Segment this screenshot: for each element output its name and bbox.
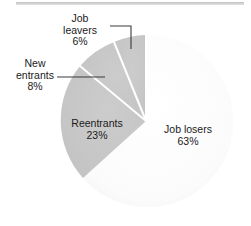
slice-label-reentrants: Reentrants 23%	[57, 117, 137, 141]
slice-label-job-leavers-line2: leavers	[63, 24, 97, 36]
pie-chart-figure: Job leavers 6% New entrants 8% Reentrant…	[0, 0, 251, 226]
slice-label-new-entrants-line1: New	[24, 57, 45, 69]
slice-label-job-leavers: Job leavers 6%	[52, 13, 108, 48]
slice-label-job-losers-name: Job losers	[164, 123, 212, 135]
slice-label-new-entrants: New entrants 8%	[6, 58, 64, 93]
slice-value-reentrants: 23%	[57, 129, 137, 141]
slice-label-reentrants-name: Reentrants	[71, 117, 122, 129]
slice-value-job-leavers: 6%	[52, 36, 108, 48]
slice-label-job-losers: Job losers 63%	[148, 123, 228, 147]
slice-value-new-entrants: 8%	[6, 81, 64, 93]
slice-label-job-leavers-line1: Job	[72, 12, 89, 24]
pie-chart-graphic	[0, 0, 251, 226]
slice-value-job-losers: 63%	[148, 135, 228, 147]
slice-label-new-entrants-line2: entrants	[16, 69, 54, 81]
